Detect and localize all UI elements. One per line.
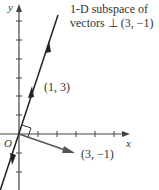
origin-label: O — [4, 138, 12, 149]
y-axis-arrow-icon — [16, 4, 22, 12]
vector-3-neg1 — [19, 134, 75, 153]
y-axis-label: y — [8, 2, 13, 13]
x-axis-label: x — [126, 138, 131, 149]
subspace-caption-line1: 1-D subspace of — [70, 3, 148, 15]
vector-arrow-icon — [62, 146, 75, 153]
vector-label-1-3: (1, 3) — [44, 81, 70, 93]
line-arrow-up-icon — [45, 41, 51, 53]
subspace-line — [0, 15, 58, 190]
vector-label-3-neg1: (3, −1) — [81, 148, 114, 160]
y-axis — [16, 4, 22, 190]
subspace-caption-line2: vectors ⊥ (3, −1) — [70, 17, 153, 29]
